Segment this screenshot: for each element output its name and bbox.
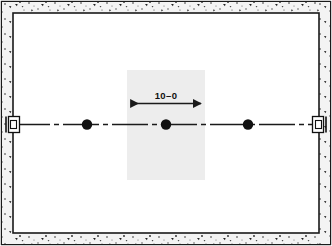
left-fixture-point <box>82 119 92 129</box>
left-wall-bracket <box>6 117 20 133</box>
wall-band-top <box>2 2 330 13</box>
plan-canvas: 10–0 <box>0 0 332 246</box>
center-fixture-point <box>161 119 171 129</box>
right-fixture-point <box>243 119 253 129</box>
dimension-label: 10–0 <box>155 90 178 101</box>
right-wall-bracket <box>313 117 327 133</box>
wall-band-bottom <box>2 233 330 244</box>
floor-plan-drawing: 10–0 <box>0 0 332 246</box>
